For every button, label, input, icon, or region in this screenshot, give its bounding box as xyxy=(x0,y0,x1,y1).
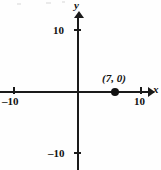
coordinate-plane-figure: –10 10 10 –10 x y (7, 0) xyxy=(0,0,161,170)
y-axis-tick-label-negative-10: –10 xyxy=(48,148,65,159)
y-axis-arrowhead-icon xyxy=(74,11,84,18)
y-axis-tick-label-positive-10: 10 xyxy=(53,25,64,36)
x-axis-label: x xyxy=(153,84,159,95)
y-axis-line xyxy=(77,16,79,170)
y-axis-tick-negative-10 xyxy=(74,152,81,154)
scan-artifact-speckle xyxy=(17,3,21,5)
scan-artifact-speckle xyxy=(46,2,51,4)
x-axis-line xyxy=(0,91,150,93)
scan-artifact-speckle xyxy=(62,1,65,3)
x-axis-tick-positive-10 xyxy=(140,87,142,94)
y-axis-tick-positive-10 xyxy=(74,29,81,31)
plotted-point-marker xyxy=(111,88,119,96)
x-axis-tick-label-negative-10: –10 xyxy=(2,96,19,107)
y-axis-label: y xyxy=(74,0,79,11)
plotted-point-label: (7, 0) xyxy=(102,73,126,84)
x-axis-tick-negative-10 xyxy=(13,87,15,94)
x-axis-tick-label-positive-10: 10 xyxy=(134,96,145,107)
